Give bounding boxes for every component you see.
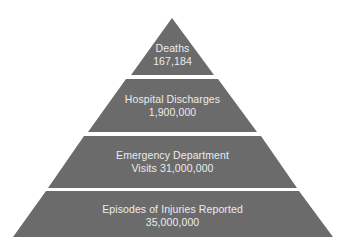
tier-injuries-reported-label: Episodes of Injuries Reported 35,000,000	[0, 203, 345, 229]
tier-deaths-value: 167,184	[0, 55, 345, 68]
tier-hospital-discharges-value: 1,900,000	[0, 106, 345, 119]
tier-emergency-department-title: Emergency Department	[0, 149, 345, 162]
tier-injuries-reported-title: Episodes of Injuries Reported	[0, 203, 345, 216]
tier-hospital-discharges-label: Hospital Discharges 1,900,000	[0, 93, 345, 119]
tier-emergency-department-value: Visits 31,000,000	[0, 162, 345, 175]
tier-deaths-label: Deaths 167,184	[0, 42, 345, 68]
tier-deaths-title: Deaths	[0, 42, 345, 55]
tier-emergency-department-label: Emergency Department Visits 31,000,000	[0, 149, 345, 175]
tier-injuries-reported-value: 35,000,000	[0, 216, 345, 229]
tier-hospital-discharges-title: Hospital Discharges	[0, 93, 345, 106]
injury-pyramid-diagram: Deaths 167,184 Hospital Discharges 1,900…	[0, 0, 345, 246]
